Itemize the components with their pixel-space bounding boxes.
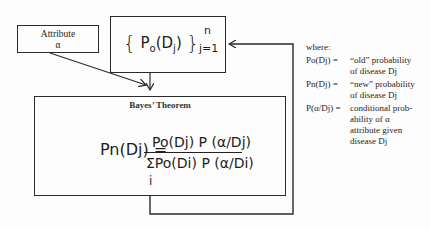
attribute-box: Attribute α — [17, 25, 99, 53]
legend-heading: where: — [306, 42, 430, 55]
lower-limit: j=1 — [199, 42, 218, 55]
legend: where: Po(Dj) = “old” probability of dis… — [306, 42, 430, 149]
attribute-symbol: α — [18, 40, 98, 50]
upper-limit: n — [204, 24, 211, 37]
legend-term: P(α/Dj) = — [306, 103, 341, 114]
arg-open: (D — [156, 34, 173, 52]
legend-definition: “new” probability of disease Dj — [350, 79, 415, 101]
close-brace: } — [187, 31, 200, 55]
p-symbol: P — [141, 34, 150, 52]
fraction-bar — [144, 152, 242, 153]
legend-item-old: Po(Dj) = “old” probability of disease Dj — [306, 55, 430, 79]
bayes-title: Bayes’ Theorem — [35, 100, 285, 110]
prior-set-expression: { Po(Dj) } — [123, 29, 199, 53]
arg-close: ) — [176, 34, 182, 52]
p-subscript: o — [150, 43, 156, 54]
attribute-label: Attribute — [18, 29, 98, 39]
legend-term: Pn(Dj) = — [306, 79, 338, 90]
sum-index: i — [149, 174, 152, 188]
formula-numerator: Po(Dj) P (α/Dj) — [152, 134, 251, 150]
bayes-update-diagram: Attribute α { Po(Dj) } n j=1 Bayes’ Theo… — [0, 0, 430, 229]
legend-item-conditional: P(α/Dj) = conditional prob- ability of α… — [306, 103, 430, 149]
open-brace: { — [123, 31, 136, 55]
legend-term: Po(Dj) = — [306, 55, 338, 66]
prior-probabilities-box: { Po(Dj) } n j=1 — [110, 16, 226, 73]
legend-item-new: Pn(Dj) = “new” probability of disease Dj — [306, 79, 430, 103]
legend-definition: conditional prob- ability of α attribute… — [350, 103, 412, 147]
arg-subscript: j — [173, 43, 176, 54]
formula-denominator: ΣPo(Di) P (α/Di) — [146, 155, 254, 171]
legend-definition: “old” probability of disease Dj — [350, 55, 411, 77]
